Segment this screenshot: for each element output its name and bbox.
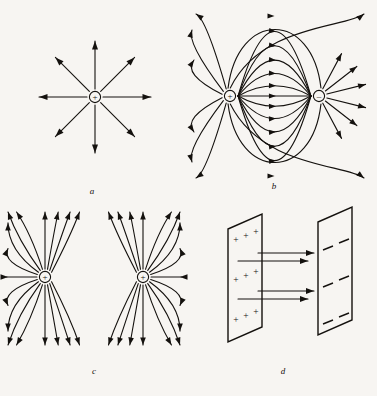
like-charge-field-line [52, 212, 80, 272]
charge-symbol: + [42, 272, 47, 282]
arrow-head [268, 173, 275, 178]
arrow-head [269, 93, 276, 98]
panel-label-c: c [92, 366, 96, 376]
arrow-head [196, 171, 204, 178]
arrow-head [17, 337, 23, 345]
arrow-head [5, 324, 11, 332]
like-charge-field-line [150, 282, 180, 331]
arrow-head [42, 212, 48, 220]
plate-charge-positive: + [233, 315, 238, 325]
charge-positive-b: + [224, 90, 235, 101]
charge-negative-b: – [313, 90, 324, 101]
arrow-head [349, 66, 357, 73]
arrow-head [358, 83, 366, 88]
charge-positive-c: + [137, 271, 148, 282]
like-charge-field-line [146, 212, 172, 269]
like-charge-field-line [108, 212, 136, 272]
charge-positive-a: + [89, 91, 100, 102]
arrow-head [188, 60, 194, 68]
arrow-head [180, 274, 188, 280]
arrow-head [65, 212, 70, 220]
electric-field-lines-figure: +a+–b++c+++++++++d [0, 0, 377, 396]
arrow-head [175, 337, 180, 345]
dipole-outer-line [196, 103, 226, 178]
arrow-head [269, 71, 276, 76]
charge-symbol: – [316, 91, 322, 101]
like-charge-field-line [8, 282, 38, 331]
arrow-head [187, 30, 192, 38]
arrow-head [54, 212, 59, 220]
dipole-field-line [228, 30, 321, 89]
arrow-head [118, 212, 123, 220]
dipole-field-line [228, 104, 321, 163]
dipole-field-line [238, 46, 311, 96]
arrow-head [8, 212, 13, 220]
negative-plate [318, 207, 352, 335]
arrow-head [269, 83, 276, 88]
arrow-head [92, 41, 98, 50]
arrow-head [175, 212, 180, 220]
arrow-head [306, 250, 314, 256]
arrow-head [8, 337, 13, 345]
arrow-head [356, 171, 364, 178]
arrow-head [356, 14, 364, 21]
arrow-head [268, 13, 275, 18]
arrow-head [140, 338, 146, 346]
plate-charge-positive: + [253, 307, 258, 317]
charge-symbol: + [140, 272, 145, 282]
arrow-head [187, 154, 192, 162]
arrow-head [269, 116, 276, 121]
like-charge-field-line [151, 249, 181, 275]
arrow-head [118, 337, 123, 345]
dipole-outer-line [191, 98, 222, 132]
arrow-head [165, 212, 171, 220]
panel-label-b: b [272, 181, 277, 191]
arrow-head [92, 145, 98, 154]
arrow-head [269, 28, 276, 33]
like-charge-field-line [148, 212, 180, 270]
like-charge-field-line [17, 212, 43, 269]
like-charge-field-line [8, 212, 40, 270]
like-charge-field-line [7, 280, 37, 306]
arrow-head [300, 258, 308, 264]
charge-symbol: + [92, 92, 97, 102]
arrow-head [349, 119, 357, 126]
arrow-head [17, 212, 23, 220]
arrow-head [108, 337, 113, 345]
plate-charge-positive: + [253, 227, 258, 237]
arrow-head [74, 337, 79, 345]
panel-label-a: a [90, 186, 95, 196]
arrow-head [128, 337, 134, 345]
arrow-head [306, 288, 314, 294]
arrow-head [180, 297, 186, 305]
field-diagram-canvas: +a+–b++c+++++++++d [0, 0, 377, 396]
dipole-outer-line [196, 14, 226, 89]
panel-label-d: d [281, 366, 286, 376]
like-charge-field-line [108, 282, 136, 345]
plate-charge-positive: + [253, 267, 258, 277]
arrow-head [269, 104, 276, 109]
arrow-head [108, 212, 113, 220]
like-charge-field-line [8, 284, 40, 345]
dipole-outer-line [191, 101, 223, 162]
arrow-head [143, 94, 152, 100]
arrow-head [65, 337, 70, 345]
arrow-head [54, 337, 60, 345]
arrow-head [358, 103, 366, 108]
charge-symbol: + [227, 91, 232, 101]
arrow-head [177, 223, 183, 231]
like-charge-field-line [150, 223, 180, 272]
arrow-head [129, 212, 134, 220]
dipole-field-line [238, 96, 311, 106]
arrow-head [39, 94, 48, 100]
arrow-head [5, 223, 11, 231]
arrow-head [336, 54, 342, 62]
like-charge-field-line [52, 282, 80, 345]
plate-charge-positive: + [233, 235, 238, 245]
arrow-head [1, 274, 9, 280]
dipole-outer-line [191, 60, 222, 94]
like-charge-field-line [151, 280, 181, 306]
arrow-head [42, 338, 48, 346]
like-charge-field-line [7, 249, 37, 275]
arrow-head [140, 212, 146, 220]
